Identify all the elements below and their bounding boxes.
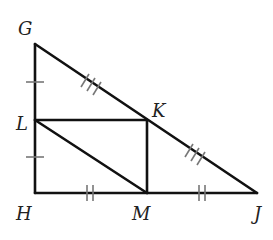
triangle-diagram: G L H M K J: [0, 0, 273, 240]
segment-LM: [35, 120, 147, 193]
label-L: L: [15, 113, 28, 134]
label-M: M: [131, 203, 151, 224]
label-H: H: [15, 203, 32, 224]
label-J: J: [250, 203, 263, 224]
label-K: K: [151, 100, 167, 121]
label-G: G: [18, 18, 32, 39]
